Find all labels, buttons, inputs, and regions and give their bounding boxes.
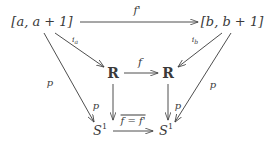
node-reals-left: R [107, 66, 119, 80]
edge-label-inclusion-a-subscript: a [74, 38, 78, 45]
edge-label-projection-left-outer: p [47, 78, 53, 88]
node-circle-left-exponent: 1 [102, 122, 107, 131]
commutative-diagram: [a, a + 1] [b, b + 1] R R S1 S1 f' f f =… [0, 0, 269, 146]
edge-label-inclusion-a: ia [72, 36, 78, 44]
node-circle-right: S1 [159, 123, 173, 136]
node-circle-right-exponent: 1 [168, 122, 173, 131]
edge-label-projection-left-inner: p [93, 101, 99, 111]
node-interval-b: [b, b + 1] [201, 15, 263, 28]
node-reals-right: R [162, 66, 174, 80]
edge-label-bottom-arrow: f = f' [121, 115, 146, 126]
node-circle-left: S1 [93, 123, 107, 136]
edge-label-bottom-arrow-text: f = f' [121, 115, 146, 126]
node-interval-a: [a, a + 1] [11, 15, 72, 28]
edge-inclusion-b [178, 33, 222, 67]
edge-projection-right-outer [175, 33, 231, 122]
edge-label-projection-right-inner: p [175, 101, 181, 111]
node-circle-right-base: S [159, 123, 168, 138]
edge-label-inclusion-b-subscript: b [194, 38, 198, 45]
edge-inclusion-a [55, 33, 104, 67]
edge-label-middle-arrow: f [138, 57, 142, 68]
edge-label-projection-right-outer: p [210, 80, 216, 90]
node-circle-left-base: S [93, 123, 102, 138]
edge-label-inclusion-b: ib [192, 36, 198, 44]
edge-label-top-arrow: f' [133, 5, 140, 16]
